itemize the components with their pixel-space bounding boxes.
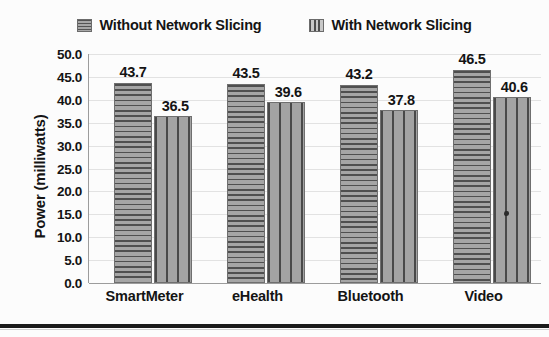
legend-item-with-network-slicing: With Network Slicing <box>309 17 471 33</box>
scan-artifact-dot <box>504 211 509 216</box>
vstripe-swatch-icon <box>309 19 324 32</box>
y-axis-tick-label: 5.0 <box>28 253 82 268</box>
bar-bluetooth-series-1: 37.8 <box>380 110 418 283</box>
y-axis-tick-label: 45.0 <box>28 69 82 84</box>
bar-ehealth-series-1: 39.6 <box>267 102 305 283</box>
bar-group: 46.540.6 <box>427 54 540 283</box>
bar-value-label: 36.5 <box>162 98 189 114</box>
x-axis-tick-label-bluetooth: Bluetooth <box>314 288 427 304</box>
bar-value-label: 43.2 <box>345 66 372 82</box>
gridline <box>89 283 541 284</box>
bottom-divider-rule <box>0 324 549 328</box>
y-axis-tick-label: 50.0 <box>28 47 82 62</box>
bar-video-series-1: 40.6 <box>493 97 531 283</box>
x-axis-tick-label-smartmeter: SmartMeter <box>88 288 201 304</box>
bar-bluetooth-series-0: 43.2 <box>340 85 378 283</box>
x-axis-tick-labels: SmartMetereHealthBluetoothVideo <box>88 288 540 312</box>
x-axis-tick-label-ehealth: eHealth <box>201 288 314 304</box>
bar-smartmeter-series-1: 36.5 <box>154 116 192 283</box>
bar-group: 43.736.5 <box>88 54 201 283</box>
bar-value-label: 37.8 <box>388 92 415 108</box>
bars-layer: 43.736.543.539.643.237.846.540.6 <box>88 54 540 283</box>
y-axis-tick-label: 0.0 <box>28 276 82 291</box>
y-axis-tick-label: 25.0 <box>28 161 82 176</box>
bar-value-label: 43.5 <box>232 65 259 81</box>
bar-chart-figure: Without Network Slicing With Network Sli… <box>0 0 549 337</box>
bar-group: 43.237.8 <box>314 54 427 283</box>
bar-value-label: 39.6 <box>275 84 302 100</box>
legend-label-series-0: Without Network Slicing <box>99 17 261 33</box>
chart-legend: Without Network Slicing With Network Sli… <box>0 12 549 38</box>
y-axis-tick-labels: 50.045.040.035.030.025.020.015.010.05.00… <box>24 54 82 283</box>
y-axis-tick-label: 35.0 <box>28 115 82 130</box>
y-axis-tick-label: 15.0 <box>28 207 82 222</box>
y-axis-tick-label: 20.0 <box>28 184 82 199</box>
bar-value-label: 40.6 <box>501 79 528 95</box>
y-axis-tick-label: 30.0 <box>28 138 82 153</box>
legend-item-without-network-slicing: Without Network Slicing <box>77 17 261 33</box>
y-axis-tick-label: 40.0 <box>28 92 82 107</box>
bottom-divider-rule-secondary <box>0 329 549 330</box>
bar-ehealth-series-0: 43.5 <box>227 84 265 283</box>
bar-video-series-0: 46.5 <box>453 70 491 283</box>
legend-label-series-1: With Network Slicing <box>331 17 471 33</box>
bar-group: 43.539.6 <box>201 54 314 283</box>
x-axis-tick-label-video: Video <box>427 288 540 304</box>
bar-smartmeter-series-0: 43.7 <box>114 83 152 283</box>
bar-value-label: 43.7 <box>119 64 146 80</box>
bar-value-label: 46.5 <box>458 51 485 67</box>
y-axis-tick-label: 10.0 <box>28 230 82 245</box>
hstripe-swatch-icon <box>77 19 92 32</box>
